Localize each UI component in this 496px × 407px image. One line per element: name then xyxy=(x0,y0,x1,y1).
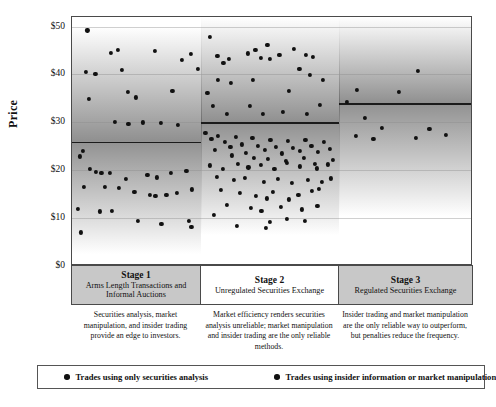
density-gradient xyxy=(72,17,201,264)
legend-label: Trades using insider information or mark… xyxy=(286,372,496,382)
stage-box-3: Stage 3Regulated Securities Exchange xyxy=(338,265,473,305)
stage-column-1 xyxy=(72,17,201,264)
legend-item-securities-analysis: Trades using only securities analysis xyxy=(64,372,208,382)
stage-title: Stage 3 xyxy=(391,275,420,286)
gridline xyxy=(339,218,472,219)
stage-subtitle: Arms Length Transactions and Informal Au… xyxy=(76,281,196,301)
gridline xyxy=(201,27,339,28)
y-tick-label: $20 xyxy=(51,164,65,174)
stage-caption-3: Insider trading and market manipulation … xyxy=(338,310,472,342)
y-tick-label: $10 xyxy=(51,212,65,222)
stage-subtitle: Unregulated Securities Exchange xyxy=(215,286,324,296)
gridline xyxy=(72,170,201,171)
chart-legend: Trades using only securities analysis Tr… xyxy=(37,365,485,389)
stage-band-line xyxy=(72,142,201,144)
legend-item-insider-information: Trades using insider information or mark… xyxy=(274,372,496,382)
stage-subtitle: Regulated Securities Exchange xyxy=(355,286,457,296)
gridline xyxy=(339,74,472,75)
gridline xyxy=(339,27,472,28)
gridline xyxy=(201,74,339,75)
gridline xyxy=(72,74,201,75)
stage-column-3 xyxy=(339,17,472,264)
legend-dot-icon xyxy=(64,374,70,380)
legend-dot-icon xyxy=(274,374,280,380)
stage-box-2: Stage 2Unregulated Securities Exchange xyxy=(200,265,339,305)
density-gradient xyxy=(339,17,472,264)
y-tick-label: $40 xyxy=(51,68,65,78)
scatter-plot-area xyxy=(71,16,472,265)
stage-caption-2: Market efficiency renders securities ana… xyxy=(200,310,338,352)
gridline xyxy=(72,27,201,28)
gridline xyxy=(339,122,472,123)
stage-box-1: Stage 1Arms Length Transactions and Info… xyxy=(71,265,201,305)
legend-label: Trades using only securities analysis xyxy=(76,372,209,382)
stage-band-line xyxy=(201,122,339,124)
y-tick-label: $50 xyxy=(51,21,65,31)
y-tick-label: $0 xyxy=(56,260,66,270)
stage-band-line xyxy=(339,103,472,105)
y-tick-label: $30 xyxy=(51,116,65,126)
stage-column-2 xyxy=(201,17,339,264)
stage-label-row: Stage 1Arms Length Transactions and Info… xyxy=(71,265,472,305)
stage-title: Stage 1 xyxy=(121,270,150,281)
stage-title: Stage 2 xyxy=(255,275,284,286)
y-axis-tick-labels: $0$10$20$30$40$50 xyxy=(0,0,71,407)
gridline xyxy=(339,170,472,171)
gridline xyxy=(72,122,201,123)
stage-caption-1: Securities analysis, market manipulation… xyxy=(71,310,200,342)
